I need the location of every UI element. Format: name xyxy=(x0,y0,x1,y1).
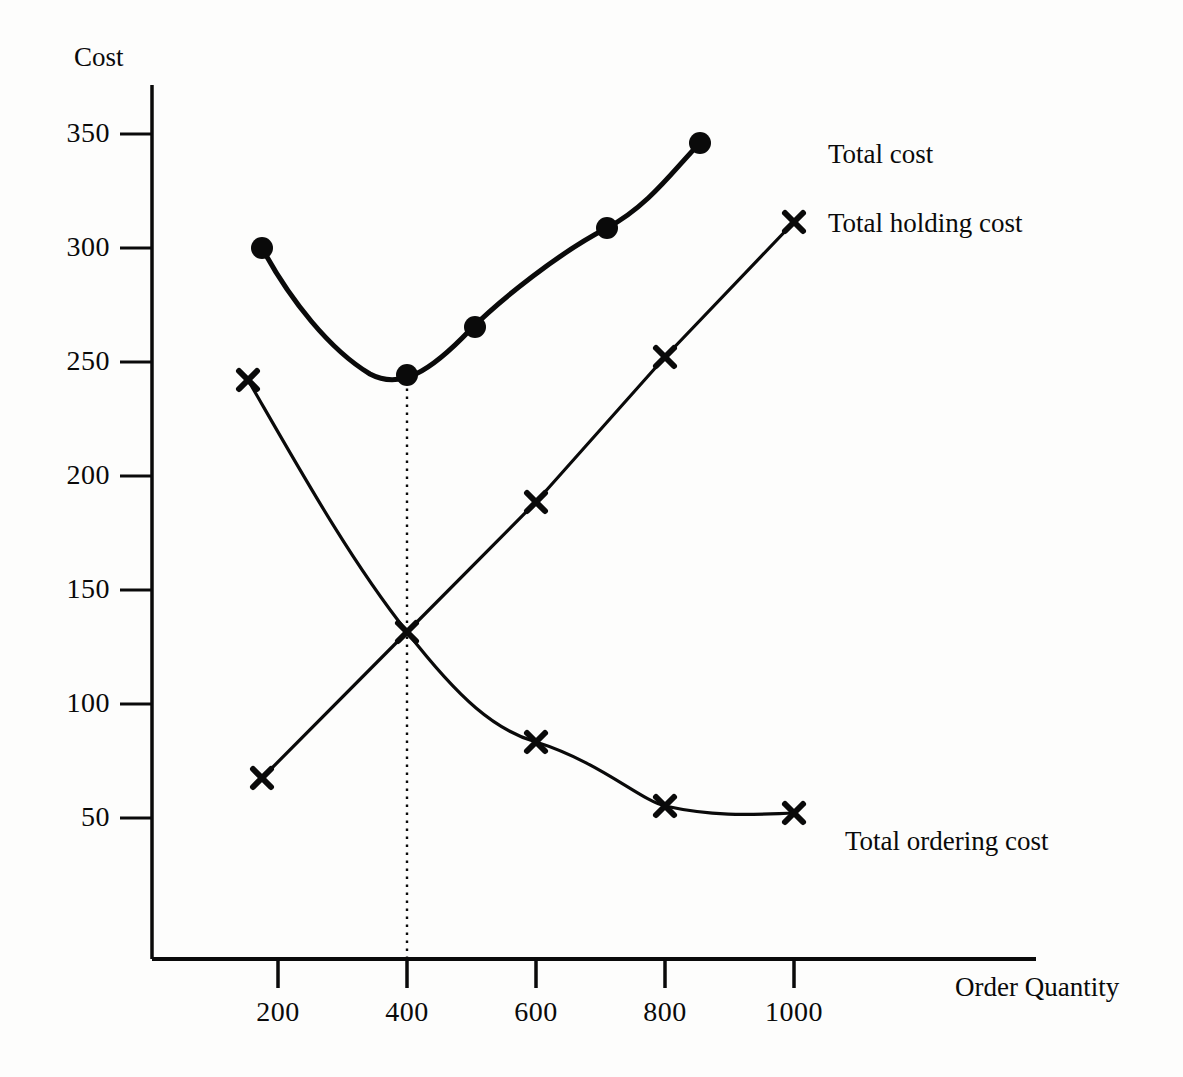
y-tick-label-50: 50 xyxy=(0,801,110,833)
series-label-total-ordering-cost: Total ordering cost xyxy=(845,826,1049,857)
total-holding-cost-curve xyxy=(262,222,794,778)
x-axis-ticks xyxy=(278,959,794,988)
total-ordering-cost-curve xyxy=(248,380,794,814)
y-axis-ticks xyxy=(120,134,152,818)
total-cost-curve xyxy=(262,143,700,380)
x-tick-label-600: 600 xyxy=(466,996,606,1028)
y-tick-label-300: 300 xyxy=(0,231,110,263)
y-axis-title: Cost xyxy=(74,42,124,73)
total-ordering-cost-markers xyxy=(239,371,803,822)
series-label-total-cost: Total cost xyxy=(828,139,933,170)
y-tick-label-100: 100 xyxy=(0,687,110,719)
total-cost-markers xyxy=(251,132,711,386)
y-tick-label-250: 250 xyxy=(0,345,110,377)
y-tick-label-350: 350 xyxy=(0,117,110,149)
y-tick-label-200: 200 xyxy=(0,459,110,491)
series-label-total-holding-cost: Total holding cost xyxy=(828,208,1023,239)
x-axis-title: Order Quantity xyxy=(955,972,1119,1003)
chart-plot-area xyxy=(0,0,1183,1077)
x-tick-label-200: 200 xyxy=(208,996,348,1028)
x-tick-label-400: 400 xyxy=(337,996,477,1028)
chart-canvas: Cost Order Quantity 350 300 250 200 150 … xyxy=(0,0,1183,1077)
x-tick-label-800: 800 xyxy=(595,996,735,1028)
y-tick-label-150: 150 xyxy=(0,573,110,605)
x-tick-label-1000: 1000 xyxy=(724,996,864,1028)
